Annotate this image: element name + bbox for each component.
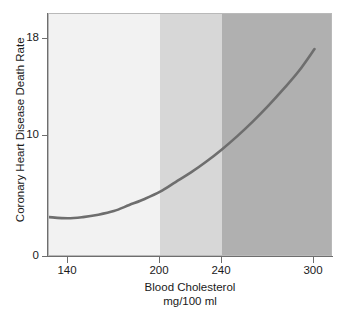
- y-axis-title: Coronary Heart Disease Death Rate: [15, 15, 27, 245]
- y-tick-mark: [42, 38, 48, 39]
- x-tick-mark: [67, 257, 68, 263]
- x-tick-mark: [159, 257, 160, 263]
- x-tick-label: 240: [211, 265, 230, 277]
- y-tick-label: 0: [33, 250, 39, 262]
- x-axis-title-line2: mg/100 ml: [48, 295, 332, 309]
- y-tick-label: 18: [26, 32, 39, 44]
- x-axis-title-line1: Blood Cholesterol: [48, 281, 332, 295]
- chart-figure: 01018 140200240300 Coronary Heart Diseas…: [0, 0, 344, 314]
- x-axis-line: [47, 256, 333, 257]
- x-axis-title: Blood Cholesterol mg/100 ml: [48, 281, 332, 308]
- series-curve: [49, 14, 332, 256]
- y-tick-mark: [42, 135, 48, 136]
- x-tick-mark: [313, 257, 314, 263]
- y-tick-label: 10: [26, 129, 39, 141]
- x-tick-mark: [221, 257, 222, 263]
- x-tick-label: 300: [303, 265, 322, 277]
- x-tick-label: 140: [57, 265, 76, 277]
- plot-area: [48, 13, 332, 256]
- y-tick-mark: [42, 256, 48, 257]
- x-tick-label: 200: [149, 265, 168, 277]
